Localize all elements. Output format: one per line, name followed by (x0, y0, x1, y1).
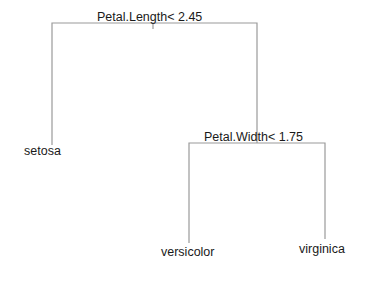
n2-branch (189, 143, 325, 243)
n2-split-label: Petal.Width< 1.75 (204, 131, 303, 144)
tree-diagram (0, 0, 367, 281)
leaf-virginica-label: virginica (299, 243, 345, 256)
leaf-setosa-label: setosa (24, 145, 61, 158)
leaf-versicolor-label: versicolor (161, 246, 215, 259)
root-branch (52, 23, 257, 145)
root-split-label: Petal.Length< 2.45 (97, 11, 202, 24)
